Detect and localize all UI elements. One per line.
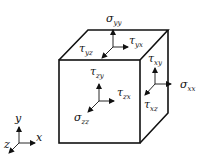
label-tau-xy: τxy (148, 52, 163, 67)
stress-cube-diagram: σyy τyx τyz τxy σxx τxz τzy τzx σzz y x … (0, 0, 207, 164)
axis-label-y: y (14, 112, 22, 125)
label-tau-zx: τzx (117, 86, 131, 101)
diagram-canvas: σyy τyx τyz τxy σxx τxz τzy τzx σzz y x … (0, 0, 207, 164)
axis-label-x: x (36, 131, 43, 144)
coordinate-axes (9, 127, 35, 153)
top-face-arrows (102, 30, 128, 58)
label-tau-zy: τzy (90, 65, 105, 80)
sigma-zz-arrow (88, 101, 99, 112)
label-sigma-xx: σxx (180, 78, 195, 93)
axis-label-z: z (3, 138, 10, 151)
front-face-arrows (88, 84, 114, 112)
right-face-arrows (145, 68, 171, 95)
label-tau-yx: τyx (129, 34, 143, 49)
cube-right-face (140, 30, 168, 143)
label-tau-yz: τyz (79, 42, 93, 57)
tau-xz-arrow (145, 84, 155, 95)
z-axis-arrow (9, 143, 19, 153)
label-tau-xz: τxz (144, 98, 158, 113)
label-sigma-yy: σyy (106, 12, 122, 27)
label-sigma-zz: σzz (74, 111, 89, 126)
tau-yz-arrow (102, 47, 113, 58)
